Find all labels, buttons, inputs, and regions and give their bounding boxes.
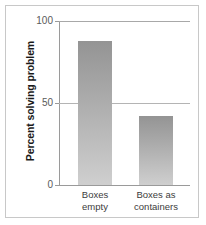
y-tick-mark-0 <box>55 185 59 186</box>
chart-figure: 100 50 0 Percent solving problem Boxes e… <box>0 0 206 225</box>
x-axis-line <box>59 185 190 186</box>
bar-boxes-empty <box>78 41 112 185</box>
y-tick-label-0: 0 <box>28 180 53 190</box>
x-label-line-2: containers <box>118 201 194 213</box>
plot-area <box>59 21 190 185</box>
y-axis-title: Percent solving problem <box>24 21 36 181</box>
bar-boxes-as-containers <box>139 116 173 185</box>
x-label-line-1: Boxes as <box>118 189 194 201</box>
x-tick-label-boxes-as-containers: Boxes as containers <box>118 189 194 212</box>
gridline-100 <box>59 21 190 22</box>
